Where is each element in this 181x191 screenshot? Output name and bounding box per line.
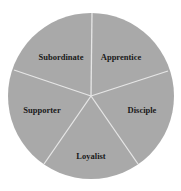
segment-label-supporter: Supporter: [23, 105, 61, 115]
segment-label-disciple: Disciple: [128, 105, 157, 115]
segment-label-subordinate: Subordinate: [39, 52, 84, 62]
segment-label-apprentice: Apprentice: [101, 52, 142, 62]
segment-label-loyalist: Loyalist: [76, 151, 105, 161]
segmented-circle-diagram: Apprentice Disciple Loyalist Supporter S…: [0, 0, 181, 191]
